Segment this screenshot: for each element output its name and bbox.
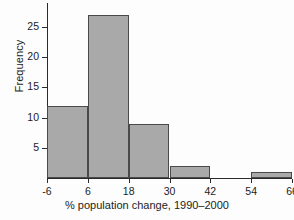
x-tick-label: 42 xyxy=(190,185,230,198)
histogram-bar xyxy=(129,124,170,178)
x-tick-66 xyxy=(292,179,293,183)
y-axis-title: Frequency xyxy=(13,11,25,121)
x-tick-label: 66 xyxy=(272,185,294,198)
y-tick-15: 15 xyxy=(42,87,47,88)
y-tick-label: 15 xyxy=(27,80,39,93)
plot-area: 510152025 -661830425466 xyxy=(47,3,292,178)
y-tick-label: 25 xyxy=(27,20,39,33)
x-tick--6 xyxy=(47,179,48,183)
x-tick-42 xyxy=(210,179,211,183)
y-tick-label: 10 xyxy=(27,111,39,124)
x-tick-18 xyxy=(129,179,130,183)
histogram-figure: Frequency 510152025 -661830425466 % popu… xyxy=(0,0,294,220)
x-tick-label: 30 xyxy=(150,185,190,198)
x-axis-title: % population change, 1990–2000 xyxy=(0,199,294,211)
y-tick-label: 20 xyxy=(27,50,39,63)
x-tick-6 xyxy=(88,179,89,183)
x-tick-label: -6 xyxy=(27,185,67,198)
x-tick-label: 6 xyxy=(68,185,108,198)
y-tick-25: 25 xyxy=(42,27,47,28)
x-tick-54 xyxy=(251,179,252,183)
x-tick-label: 18 xyxy=(109,185,149,198)
y-tick-20: 20 xyxy=(42,57,47,58)
histogram-bar xyxy=(170,166,211,178)
x-tick-30 xyxy=(170,179,171,183)
histogram-bar xyxy=(88,15,129,178)
histogram-bar xyxy=(251,172,292,178)
y-tick-label: 5 xyxy=(33,141,39,154)
histogram-bar xyxy=(47,106,88,178)
x-tick-label: 54 xyxy=(231,185,271,198)
